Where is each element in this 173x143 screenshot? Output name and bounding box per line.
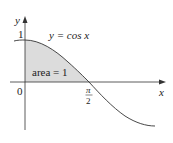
x-axis-arrow-icon (159, 80, 166, 85)
y-tick-1: 1 (18, 28, 24, 40)
y-axis-arrow-icon (23, 16, 28, 23)
area-label: area = 1 (32, 66, 68, 78)
pi-label: π (86, 85, 91, 95)
curve-label: y = cos x (48, 29, 89, 41)
two-label: 2 (86, 96, 91, 106)
cosine-area-diagram: y x 0 1 y = cos x area = 1 π 2 (0, 0, 173, 143)
origin-label: 0 (17, 85, 23, 97)
y-axis-label: y (14, 14, 20, 26)
x-axis-label: x (158, 86, 164, 98)
